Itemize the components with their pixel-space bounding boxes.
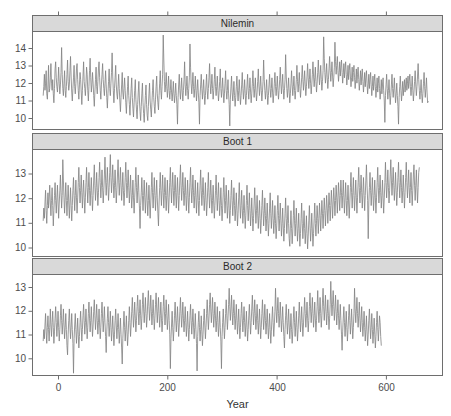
panel-1-y-ticks bbox=[29, 49, 33, 119]
ytick-label-p2-11: 11 bbox=[0, 218, 26, 228]
strip-label-panel-1: Nilemin bbox=[32, 19, 443, 29]
ytick-label-p3-11: 11 bbox=[0, 330, 26, 340]
ytick-label-p1-10: 10 bbox=[0, 114, 26, 124]
panel-boot-2 bbox=[29, 259, 443, 380]
ytick-label-p3-12: 12 bbox=[0, 306, 26, 316]
xtick-label-200: 200 bbox=[147, 383, 188, 393]
panel-boot-1 bbox=[29, 134, 443, 257]
ytick-label-p1-14: 14 bbox=[0, 44, 26, 54]
ytick-label-p1-11: 11 bbox=[0, 96, 26, 106]
panel-2-y-ticks bbox=[29, 174, 33, 248]
xtick-label-0: 0 bbox=[38, 383, 79, 393]
lattice-panel-chart bbox=[0, 0, 451, 416]
panel-3-bottom-ticks bbox=[59, 376, 387, 380]
ytick-label-p2-10: 10 bbox=[0, 243, 26, 253]
ytick-label-p3-10: 10 bbox=[0, 354, 26, 364]
xtick-label-400: 400 bbox=[257, 383, 298, 393]
ytick-label-p1-13: 13 bbox=[0, 61, 26, 71]
x-axis-title: Year bbox=[32, 399, 443, 410]
ytick-label-p1-12: 12 bbox=[0, 79, 26, 89]
panel-nilemin bbox=[29, 12, 443, 130]
panel-1-top-ticks bbox=[59, 12, 387, 16]
strip-label-panel-2: Boot 1 bbox=[32, 137, 443, 147]
strip-label-panel-3: Boot 2 bbox=[32, 262, 443, 272]
panel-3-y-ticks bbox=[29, 288, 33, 359]
ytick-label-p3-13: 13 bbox=[0, 283, 26, 293]
ytick-label-p2-13: 13 bbox=[0, 169, 26, 179]
xtick-label-600: 600 bbox=[366, 383, 407, 393]
ytick-label-p2-12: 12 bbox=[0, 194, 26, 204]
